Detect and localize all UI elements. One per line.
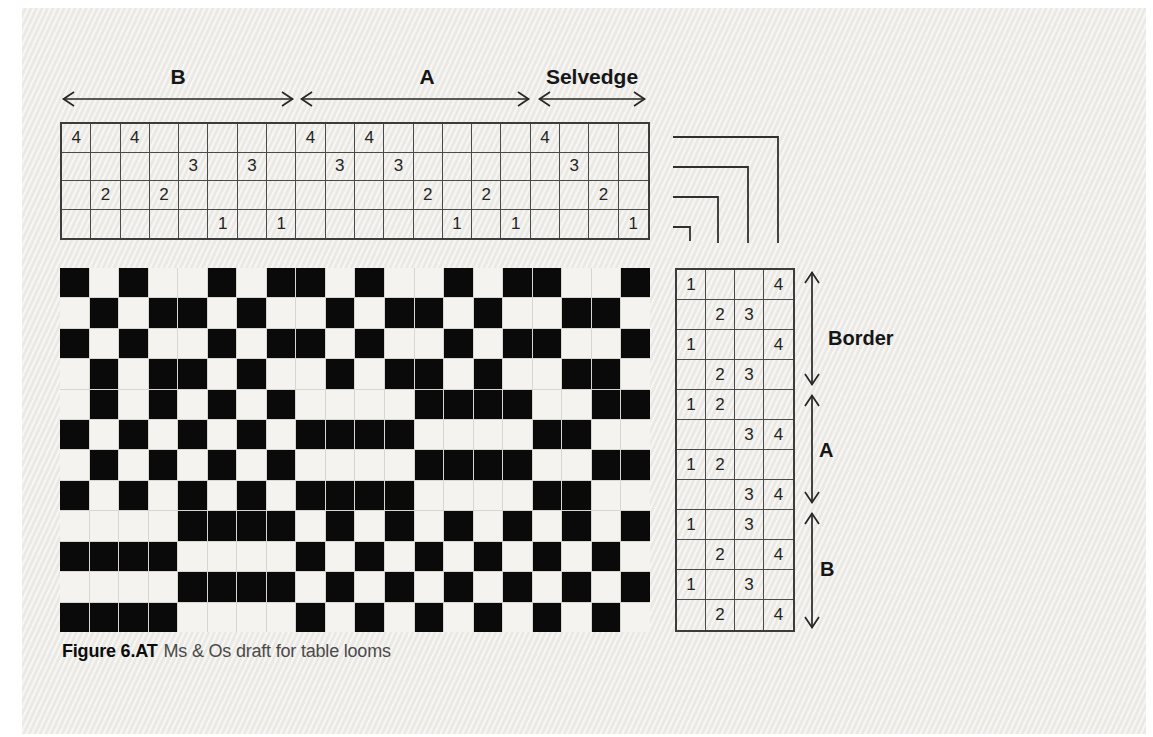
drawdown-cell-black <box>208 329 237 358</box>
threading-cell <box>208 181 237 210</box>
threading-cell: 1 <box>208 210 237 239</box>
drawdown-cell-black <box>178 298 207 327</box>
liftplan-cell <box>735 450 764 480</box>
drawdown-cell-white <box>178 329 207 358</box>
liftplan-cell <box>706 330 735 360</box>
threading-cell <box>472 210 501 239</box>
drawdown-cell-white <box>267 481 296 510</box>
threading-cell <box>619 153 648 182</box>
drawdown-cell-white <box>592 481 621 510</box>
drawdown-cell-white <box>119 390 148 419</box>
threading-cell: 3 <box>560 153 589 182</box>
drawdown-cell-white <box>208 481 237 510</box>
liftplan-cell <box>735 270 764 300</box>
drawdown-cell-white <box>178 603 207 632</box>
drawdown-cell-black <box>385 511 414 540</box>
threading-cell <box>384 124 413 153</box>
drawdown-cell-white <box>444 359 473 388</box>
drawdown-cell-white <box>385 603 414 632</box>
drawdown-cell-white <box>237 603 266 632</box>
drawdown-cell-white <box>60 390 89 419</box>
drawdown-cell-black <box>178 511 207 540</box>
drawdown-cell-black <box>503 329 532 358</box>
drawdown-cell-white <box>474 268 503 297</box>
drawdown-cell-white <box>562 268 591 297</box>
threading-cell: 2 <box>91 181 120 210</box>
liftplan-cell <box>706 510 735 540</box>
drawdown-cell-white <box>326 329 355 358</box>
drawdown-cell-black <box>562 420 591 449</box>
liftplan-cell <box>706 570 735 600</box>
drawdown-cell-white <box>621 359 650 388</box>
liftplan-section-label-a: A <box>819 438 833 462</box>
liftplan-cell <box>677 480 706 510</box>
drawdown-cell-black <box>149 359 178 388</box>
threading-cell <box>267 181 296 210</box>
threading-cell <box>531 210 560 239</box>
threading-cell <box>560 210 589 239</box>
liftplan-cell: 4 <box>764 270 793 300</box>
drawdown-cell-white <box>208 603 237 632</box>
drawdown-cell-white <box>119 298 148 327</box>
drawdown-cell-white <box>208 359 237 388</box>
drawdown-cell-black <box>592 450 621 479</box>
drawdown-cell-black <box>385 359 414 388</box>
drawdown-cell-black <box>415 542 444 571</box>
drawdown-cell-white <box>621 420 650 449</box>
threading-cell <box>589 124 618 153</box>
drawdown-cell-white <box>208 298 237 327</box>
liftplan-cell: 2 <box>706 390 735 420</box>
drawdown-cell-white <box>355 450 384 479</box>
threading-cell <box>91 153 120 182</box>
threading-section-arrow-selvedge <box>536 90 648 108</box>
drawdown-cell-black <box>296 329 325 358</box>
drawdown-cell-black <box>415 390 444 419</box>
liftplan-cell <box>764 570 793 600</box>
drawdown-cell-black <box>208 450 237 479</box>
threading-cell <box>121 181 150 210</box>
drawdown-cell-white <box>562 450 591 479</box>
drawdown-cell-white <box>621 298 650 327</box>
drawdown-cell-white <box>533 298 562 327</box>
threading-cell <box>355 210 384 239</box>
threading-cell <box>296 153 325 182</box>
drawdown-cell-black <box>237 572 266 601</box>
drawdown-cell-white <box>592 268 621 297</box>
threading-cell <box>501 124 530 153</box>
threading-cell <box>150 124 179 153</box>
threading-cell <box>355 181 384 210</box>
drawdown-cell-black <box>326 298 355 327</box>
drawdown-cell-white <box>178 542 207 571</box>
drawdown-cell-black <box>592 542 621 571</box>
shaft-connector-lines <box>655 115 805 255</box>
threading-cell <box>208 124 237 153</box>
threading-cell <box>179 124 208 153</box>
drawdown-cell-black <box>562 511 591 540</box>
drawdown-cell-white <box>326 390 355 419</box>
liftplan-cell: 3 <box>735 510 764 540</box>
drawdown-cell-white <box>326 542 355 571</box>
liftplan-cell: 4 <box>764 540 793 570</box>
drawdown-cell-white <box>296 298 325 327</box>
drawdown-cell-black <box>355 481 384 510</box>
threading-cell <box>414 124 443 153</box>
threading-cell <box>560 181 589 210</box>
drawdown-cell-white <box>592 572 621 601</box>
drawdown-cell-black <box>415 450 444 479</box>
drawdown-cell-white <box>474 329 503 358</box>
drawdown-cell-black <box>533 481 562 510</box>
drawdown-cell-white <box>119 450 148 479</box>
liftplan-cell: 1 <box>677 570 706 600</box>
drawdown-cell-black <box>60 420 89 449</box>
drawdown-cell-white <box>503 298 532 327</box>
drawdown-cell-white <box>415 268 444 297</box>
drawdown-cell-white <box>90 420 119 449</box>
threading-cell <box>179 181 208 210</box>
drawdown-cell-white <box>60 572 89 601</box>
liftplan-cell <box>706 420 735 450</box>
threading-grid: 44444333332222211111 <box>60 122 650 240</box>
drawdown-cell-black <box>296 481 325 510</box>
drawdown-cell-black <box>296 542 325 571</box>
liftplan-cell <box>677 540 706 570</box>
drawdown-cell-black <box>90 450 119 479</box>
